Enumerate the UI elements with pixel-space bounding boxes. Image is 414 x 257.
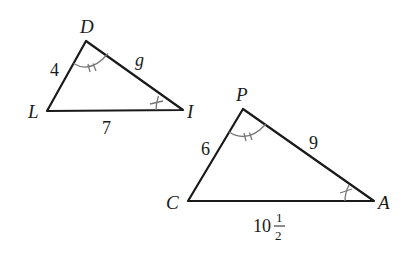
vertex-label-d: D [79, 16, 94, 37]
side-label-pa: 9 [309, 133, 318, 153]
side-label-dl: 4 [50, 60, 59, 80]
angle-mark-p [229, 124, 266, 137]
side-label-ca-denominator: 2 [275, 228, 282, 243]
angle-tick-p-2 [250, 133, 253, 141]
vertex-label-p: P [235, 84, 248, 105]
side-label-ca-numerator: 1 [276, 210, 283, 225]
angle-tick-d-1 [88, 64, 90, 72]
triangle-pca: P C A 6 9 10 1 2 [166, 84, 390, 243]
side-label-ca: 10 1 2 [253, 210, 285, 243]
triangle-dli: D L I 4 7 g [27, 16, 195, 138]
similar-triangles-diagram: D L I 4 7 g P C A 6 9 10 1 2 [0, 0, 414, 257]
vertex-label-i: I [186, 101, 195, 122]
vertex-label-l: L [27, 101, 39, 122]
vertex-label-a: A [376, 192, 390, 213]
vertex-label-c: C [166, 192, 179, 213]
angle-mark-a [345, 185, 349, 201]
triangle-pca-outline [188, 109, 374, 201]
side-label-ca-whole: 10 [253, 216, 271, 236]
side-label-pc: 6 [201, 139, 210, 159]
side-label-li: 7 [102, 118, 111, 138]
side-label-di: g [135, 50, 144, 70]
